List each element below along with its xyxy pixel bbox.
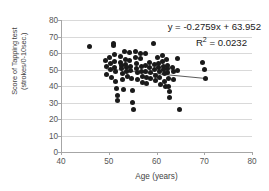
- gridline: [61, 119, 252, 120]
- y-tick-label: 0: [38, 148, 58, 157]
- data-point: [143, 51, 148, 56]
- data-point: [87, 44, 92, 49]
- data-point: [129, 76, 134, 81]
- y-axis-title: Score of Tapping test (strokes/0-10sec.): [10, 1, 28, 121]
- data-point: [130, 88, 135, 93]
- y-tick-label: 50: [38, 65, 58, 74]
- data-point: [112, 59, 117, 64]
- gridline: [61, 53, 252, 54]
- x-tick-label: 50: [96, 157, 122, 166]
- data-point: [202, 67, 207, 72]
- y-tick-label: 30: [38, 98, 58, 107]
- gridline: [61, 103, 252, 104]
- gridline: [61, 136, 252, 137]
- x-tick-mark: [157, 152, 158, 155]
- x-tick-label: 70: [191, 157, 217, 166]
- y-axis-line: [61, 20, 62, 153]
- y-tick-label: 70: [38, 32, 58, 41]
- data-point: [166, 84, 171, 89]
- regression-equation: y = -0.2759x + 63.952: [168, 20, 261, 33]
- scatter-chart: Score of Tapping test (strokes/0-10sec.)…: [0, 0, 269, 191]
- data-point: [121, 87, 126, 92]
- y-tick-label: 20: [38, 115, 58, 124]
- y-tick-label: 40: [38, 82, 58, 91]
- data-point: [118, 54, 123, 59]
- x-tick-mark: [109, 152, 110, 155]
- data-point: [114, 86, 119, 91]
- x-tick-mark: [252, 152, 253, 155]
- regression-annotation: y = -0.2759x + 63.952 R2 = 0.0232: [168, 20, 261, 49]
- x-tick-mark: [61, 152, 62, 155]
- data-point: [166, 76, 171, 81]
- data-point: [112, 52, 117, 57]
- y-tick-label: 60: [38, 49, 58, 58]
- r-squared-value: R2 = 0.0232: [168, 33, 261, 49]
- y-tick-label: 80: [38, 16, 58, 25]
- data-point: [127, 50, 132, 55]
- y-tick-label: 10: [38, 131, 58, 140]
- r-squared-label: R: [196, 37, 203, 48]
- x-axis-title: Age (years): [60, 172, 253, 181]
- gridline: [61, 86, 252, 87]
- r-squared-number: = 0.0232: [207, 37, 247, 48]
- data-point: [200, 60, 205, 65]
- x-tick-mark: [204, 152, 205, 155]
- x-tick-label: 60: [144, 157, 170, 166]
- x-tick-label: 40: [48, 157, 74, 166]
- x-tick-label: 80: [239, 157, 265, 166]
- data-point: [203, 76, 208, 81]
